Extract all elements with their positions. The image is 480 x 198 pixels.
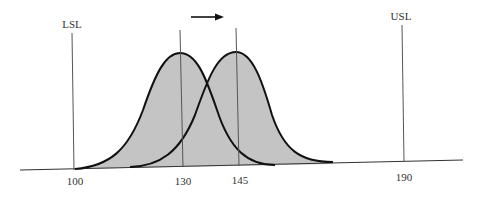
usl-line (402, 25, 404, 162)
tick-label-145: 145 (232, 174, 249, 186)
shift-arrow-icon (191, 14, 224, 21)
lsl-line (72, 33, 74, 170)
tick-label-190: 190 (396, 171, 413, 183)
tick-label-130: 130 (175, 175, 192, 187)
tick-label-100: 100 (67, 175, 84, 187)
process-shift-diagram: LSL USL 100 130 145 190 (0, 0, 480, 198)
usl-label: USL (391, 10, 412, 22)
lsl-label: LSL (62, 18, 82, 30)
